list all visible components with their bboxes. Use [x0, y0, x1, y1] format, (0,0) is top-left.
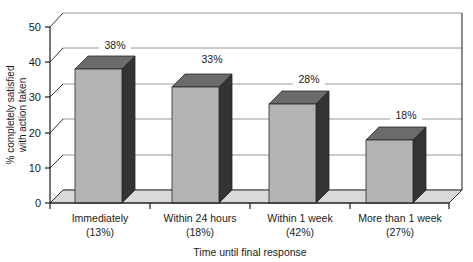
bar-front-face-2	[269, 104, 316, 203]
depth-line-30	[50, 84, 63, 97]
bar-group-2	[269, 91, 329, 203]
y-axis-title: % completely satisfied with action taken	[5, 66, 28, 165]
category-label-1: Within 24 hours	[164, 212, 237, 224]
category-sublabel-3: (27%)	[386, 226, 414, 238]
chart-svg: 50 40 30 20 10 0 % completely satisfied …	[0, 0, 473, 262]
y-axis: 50 40 30 20 10 0	[29, 21, 50, 209]
y-tick-label-30: 30	[29, 91, 41, 103]
y-tick-label-20: 20	[29, 127, 41, 139]
bar-front-face-1	[172, 87, 219, 203]
bar-group-3	[366, 127, 426, 203]
bar-side-face-2	[316, 91, 329, 203]
value-label-3: 18%	[395, 109, 416, 121]
y-tick-label-0: 0	[35, 197, 41, 209]
value-label-0: 38%	[104, 39, 125, 51]
bar-front-face-0	[75, 69, 122, 203]
bar-group-0	[75, 56, 135, 203]
x-axis	[50, 203, 449, 209]
category-sublabel-0: (13%)	[86, 226, 114, 238]
category-sublabel-2: (42%)	[286, 226, 314, 238]
y-tick-label-10: 10	[29, 162, 41, 174]
bar-chart-figure: 50 40 30 20 10 0 % completely satisfied …	[0, 0, 473, 262]
depth-line-20	[50, 119, 63, 133]
category-label-3: More than 1 week	[358, 212, 442, 224]
bar-group-1	[172, 74, 232, 203]
category-sublabel-1: (18%)	[186, 226, 214, 238]
depth-line-50	[50, 13, 63, 27]
y-axis-title-line2: with action taken	[17, 78, 28, 154]
y-tick-label-50: 50	[29, 21, 41, 33]
category-labels: Immediately (13%) Within 24 hours (18%) …	[72, 212, 443, 238]
bar-side-face-1	[219, 74, 232, 203]
value-label-1: 33%	[201, 53, 222, 65]
bar-side-face-0	[122, 56, 135, 203]
category-label-0: Immediately	[72, 212, 129, 224]
y-tick-label-40: 40	[29, 56, 41, 68]
category-label-2: Within 1 week	[267, 212, 333, 224]
depth-line-10	[50, 155, 63, 168]
bar-side-face-3	[413, 127, 426, 203]
depth-connectors	[50, 13, 63, 203]
depth-line-40	[50, 48, 63, 62]
y-axis-title-line1: % completely satisfied	[5, 66, 16, 165]
value-label-2: 28%	[298, 73, 319, 85]
bar-front-face-3	[366, 140, 413, 203]
x-axis-title: Time until final response	[193, 246, 307, 258]
